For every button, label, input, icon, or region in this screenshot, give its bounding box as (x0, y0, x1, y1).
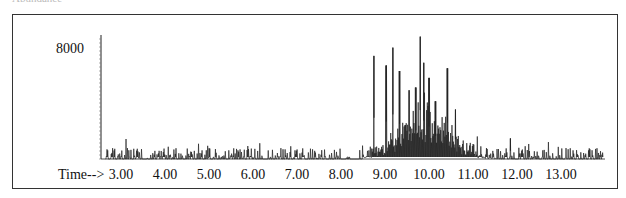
x-tick-label: 9.00 (373, 167, 398, 183)
x-tick-label: 13.00 (545, 167, 577, 183)
x-tick-label: 4.00 (153, 167, 178, 183)
chart-caption: Abundance (12, 0, 62, 4)
x-tick-label: 12.00 (501, 167, 533, 183)
chart-frame: 8000 Time--> 3.004.005.006.007.008.009.0… (12, 14, 618, 189)
x-tick-label: 11.00 (458, 167, 489, 183)
x-tick-label: 3.00 (109, 167, 134, 183)
y-tick-label: 8000 (56, 41, 84, 57)
tic-trace (106, 37, 603, 159)
x-tick-label: 5.00 (197, 167, 222, 183)
x-tick-label: 10.00 (413, 167, 445, 183)
chromatogram-plot (13, 15, 619, 190)
x-tick-label: 6.00 (241, 167, 266, 183)
x-tick-label: 8.00 (329, 167, 354, 183)
x-tick-label: 7.00 (285, 167, 310, 183)
x-axis-label: Time--> (58, 167, 104, 183)
